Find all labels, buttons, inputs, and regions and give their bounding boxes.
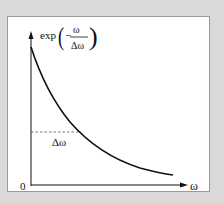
y-axis-label: exp ( − ω Δω ): [40, 22, 98, 51]
x-axis-label: ω: [190, 179, 198, 193]
decay-chart: 0 ω Δω exp ( − ω Δω ): [0, 0, 224, 204]
origin-label: 0: [20, 180, 26, 192]
annotation-label: Δω: [52, 136, 66, 148]
decay-curve: [31, 47, 173, 175]
svg-text:(: (: [58, 22, 64, 51]
x-axis-arrow-icon: [180, 183, 188, 188]
svg-text:ω: ω: [73, 24, 80, 35]
svg-text:exp: exp: [40, 29, 56, 41]
svg-text:Δω: Δω: [71, 40, 84, 51]
svg-text:): ): [89, 22, 98, 51]
y-axis-arrow-icon: [29, 31, 34, 39]
